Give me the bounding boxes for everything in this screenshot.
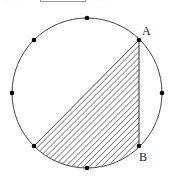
circle-diagram: A B bbox=[0, 0, 173, 178]
point-left bbox=[10, 91, 15, 96]
point-top bbox=[85, 16, 90, 21]
label-B: B bbox=[139, 150, 147, 164]
point-lower-left bbox=[32, 144, 37, 149]
point-B bbox=[137, 144, 142, 149]
point-bottom bbox=[85, 166, 90, 171]
point-upper-left bbox=[32, 38, 37, 43]
shaded-region bbox=[34, 40, 139, 167]
point-right bbox=[160, 91, 165, 96]
label-A: A bbox=[142, 24, 151, 38]
point-A bbox=[137, 38, 142, 43]
